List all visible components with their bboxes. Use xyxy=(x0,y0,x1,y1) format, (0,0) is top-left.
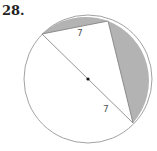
shaded-segment-bc xyxy=(108,21,149,123)
diameter-label: 7 xyxy=(103,104,109,114)
center-dot xyxy=(86,77,89,80)
shaded-segment-ab xyxy=(42,17,108,34)
circle-diagram: 7 7 xyxy=(0,0,157,151)
chord-ab-label: 7 xyxy=(77,28,83,38)
